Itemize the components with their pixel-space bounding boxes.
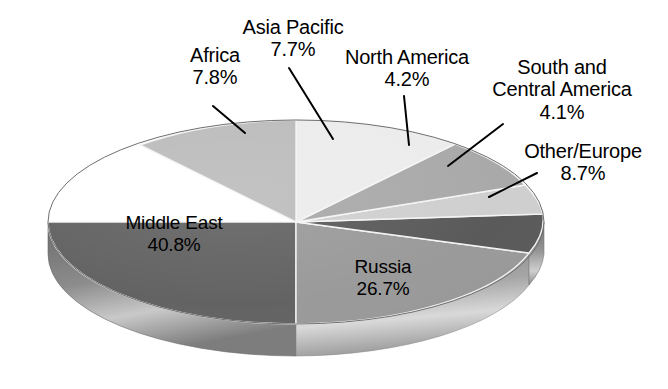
label-south-central-america-line2: Central America [474,78,650,100]
label-russia-name: Russia [327,256,439,278]
label-middle-east-percent: 40.8% [99,234,249,256]
label-asia-pacific-name: Asia Pacific [225,16,361,38]
label-russia: Russia 26.7% [327,256,439,300]
label-north-america-name: North America [333,46,481,68]
label-north-america-percent: 4.2% [333,68,481,90]
label-other-europe: Other/Europe 8.7% [508,140,658,185]
label-russia-percent: 26.7% [327,278,439,300]
label-other-europe-name: Other/Europe [508,140,658,162]
label-north-america: North America 4.2% [333,46,481,91]
label-south-central-america: South and Central America 4.1% [474,56,650,123]
label-middle-east-name: Middle East [99,212,249,234]
label-middle-east: Middle East 40.8% [99,212,249,256]
label-africa-percent: 7.8% [173,66,257,88]
pie-chart-figure: Africa 7.8% Asia Pacific 7.7% North Amer… [0,0,668,389]
label-other-europe-percent: 8.7% [508,162,658,184]
label-south-central-america-percent: 4.1% [474,101,650,123]
label-south-central-america-line1: South and [474,56,650,78]
